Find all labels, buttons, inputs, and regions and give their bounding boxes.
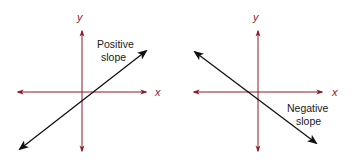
y-axis-label: y — [252, 11, 260, 23]
negative-slope-diagram: x y Negative slope — [194, 11, 338, 151]
negative-slope-label-line1: Negative — [287, 102, 329, 114]
positive-slope-label-line2: slope — [101, 51, 126, 63]
x-axis-label: x — [331, 86, 338, 98]
positive-slope-line — [20, 51, 146, 149]
positive-slope-label-line1: Positive — [97, 38, 134, 50]
positive-slope-diagram: x y Positive slope — [18, 11, 161, 151]
negative-slope-line — [195, 52, 316, 143]
negative-slope-label-line2: slope — [296, 115, 321, 127]
x-axis-label: x — [154, 86, 161, 98]
slope-diagram-canvas: x y Positive slope x y Negative slope — [0, 0, 355, 164]
y-axis-label: y — [76, 11, 84, 23]
